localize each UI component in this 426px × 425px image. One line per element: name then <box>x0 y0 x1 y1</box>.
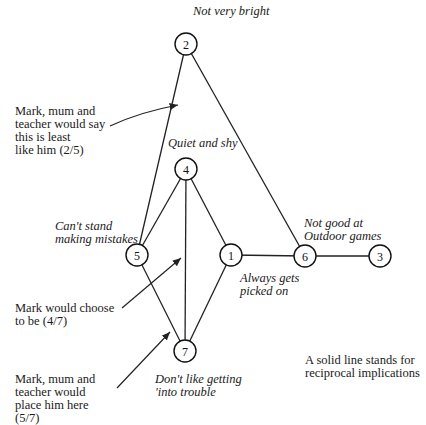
svg-text:7: 7 <box>182 345 188 359</box>
arrow-would-choose-icon <box>122 258 181 308</box>
node-4: 4 <box>175 158 197 180</box>
edge-5-7 <box>137 255 185 351</box>
node-3: 3 <box>369 245 391 267</box>
svg-text:4: 4 <box>183 163 189 177</box>
node-6: 6 <box>294 245 316 267</box>
node-2: 2 <box>175 33 197 55</box>
caption-node-4: Quiet and shy <box>168 137 237 150</box>
annotation-would-choose: Mark would choose to be (4/7) <box>15 302 114 328</box>
annotation-place-him: Mark, mum and teacher would place him he… <box>15 373 95 425</box>
caption-node-2: Not very bright <box>193 5 269 18</box>
legend-text: A solid line stands for reciprocal impli… <box>305 354 420 380</box>
svg-text:3: 3 <box>377 250 383 264</box>
caption-node-6: Not good at Outdoor games <box>304 217 381 243</box>
edge-4-1 <box>186 169 231 255</box>
svg-text:6: 6 <box>302 250 308 264</box>
edge-4-7 <box>185 169 186 351</box>
node-1: 1 <box>220 244 242 266</box>
edge-2-6 <box>186 44 305 256</box>
caption-node-1: Always gets picked on <box>240 272 299 298</box>
svg-text:1: 1 <box>228 249 234 263</box>
caption-node-7: Don't like getting 'into trouble <box>155 373 242 399</box>
edge-1-7 <box>185 255 231 351</box>
edge-4-5 <box>137 169 186 255</box>
node-5: 5 <box>126 244 148 266</box>
annotation-least-like: Mark, mum and teacher would say this is … <box>15 105 105 157</box>
node-7: 7 <box>174 340 196 362</box>
svg-text:5: 5 <box>134 249 140 263</box>
svg-text:2: 2 <box>183 38 189 52</box>
caption-node-5: Can't stand making mistakes <box>55 220 138 246</box>
